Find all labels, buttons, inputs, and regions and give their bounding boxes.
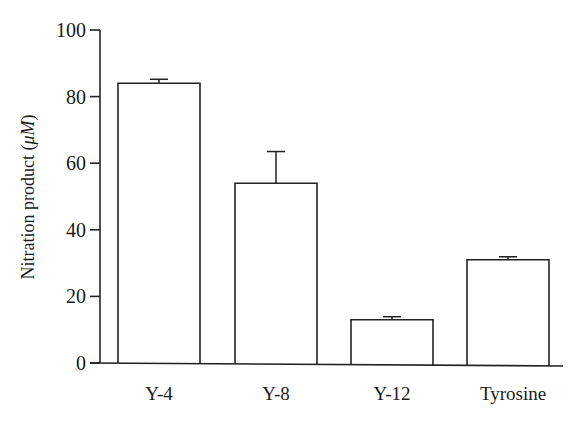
bar-tyrosine — [467, 257, 549, 366]
y-axis-label-text: Nitration product — [18, 155, 38, 279]
y-tick-label: 0 — [76, 352, 86, 374]
bar-y-8 — [235, 152, 317, 364]
bars — [118, 79, 549, 366]
bar-y-12 — [351, 317, 433, 365]
x-tick-label: Y-12 — [374, 383, 411, 404]
bar-rect — [467, 260, 549, 366]
y-tick-label: 100 — [56, 19, 86, 41]
y-tick-label: 40 — [66, 219, 86, 241]
y-tick-label: 60 — [66, 152, 86, 174]
bar-rect — [351, 320, 433, 365]
x-tick-label: Tyrosine — [480, 383, 546, 404]
bar-rect — [118, 83, 200, 363]
y-tick-label: 20 — [66, 285, 86, 307]
y-axis-label-unit: μM — [18, 119, 38, 145]
x-tick-label: Y-4 — [145, 383, 173, 404]
y-tick-label: 80 — [66, 86, 86, 108]
x-axis: Y-4Y-8Y-12Tyrosine — [90, 363, 563, 404]
bar-chart: 020406080100 Y-4Y-8Y-12Tyrosine Nitratio… — [0, 0, 581, 423]
bar-y-4 — [118, 79, 200, 363]
x-tick-label: Y-8 — [262, 383, 289, 404]
bar-rect — [235, 183, 317, 364]
y-axis: 020406080100 — [56, 19, 100, 374]
y-axis-label: Nitration product (μM) — [18, 114, 39, 279]
